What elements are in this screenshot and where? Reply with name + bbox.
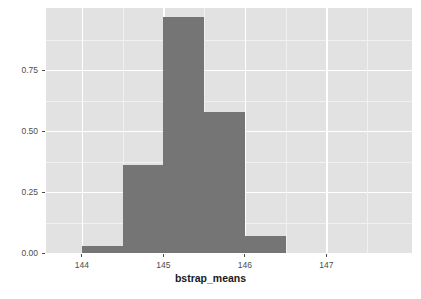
x-tick-label: 147 [319, 261, 333, 270]
plot-panel [46, 8, 412, 253]
gridline-major-vertical [82, 8, 83, 253]
y-tick-mark [42, 131, 45, 132]
y-tick-mark [42, 253, 45, 254]
x-tick-label: 146 [238, 261, 252, 270]
y-tick-label: 0.75 [8, 66, 38, 75]
x-tick-mark [81, 254, 82, 257]
x-axis-title: bstrap_means [0, 272, 421, 284]
histogram-bar [204, 112, 245, 253]
histogram-bar [245, 236, 286, 253]
gridline-minor-vertical [367, 8, 368, 253]
x-tick-mark [244, 254, 245, 257]
histogram-bar [123, 165, 164, 253]
histogram-bar [82, 246, 123, 253]
y-tick-mark [42, 70, 45, 71]
histogram-bar [163, 17, 204, 253]
y-tick-label: 0.50 [8, 127, 38, 136]
plot-root: density 0.000.250.500.75 144145146147 bs… [0, 0, 421, 299]
y-tick-label: 0.00 [8, 249, 38, 258]
x-tick-mark [326, 254, 327, 257]
gridline-major-horizontal [46, 70, 412, 71]
gridline-major-vertical [326, 8, 327, 253]
x-tick-label: 145 [156, 261, 170, 270]
x-tick-label: 144 [75, 261, 89, 270]
gridline-minor-horizontal [46, 40, 412, 41]
y-tick-label: 0.25 [8, 188, 38, 197]
y-tick-mark [42, 192, 45, 193]
gridline-minor-horizontal [46, 101, 412, 102]
gridline-minor-vertical [286, 8, 287, 253]
gridline-major-vertical [245, 8, 246, 253]
x-tick-mark [163, 254, 164, 257]
